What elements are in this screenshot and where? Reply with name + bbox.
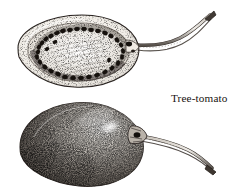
botanical-illustration-figure: Tree-tomato: [0, 0, 236, 193]
tree-tomato-whole-fruit: [8, 98, 216, 193]
whole-fruit-stalk: [140, 136, 216, 175]
cross-section-stalk: [136, 11, 216, 51]
whole-fruit-calyx: [128, 126, 147, 144]
tree-tomato-cross-section: [12, 10, 216, 94]
species-caption: Tree-tomato: [171, 92, 233, 104]
